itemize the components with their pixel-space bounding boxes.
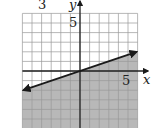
x-tick-label: 5 — [122, 73, 130, 88]
y-axis-label: y — [68, 0, 77, 12]
inequality-graph: 3 y 5 5 x — [0, 0, 156, 128]
x-axis-label: x — [143, 72, 151, 87]
y-tick-label: 5 — [69, 15, 77, 30]
problem-number: 3 — [38, 0, 46, 12]
